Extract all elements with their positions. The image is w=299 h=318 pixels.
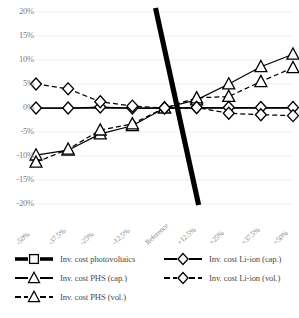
x-axis-tick-label: +50% bbox=[271, 229, 290, 247]
legend-key-triangle-dashed bbox=[14, 290, 54, 304]
legend-item[interactable]: Inv. cost PHS (cap.) bbox=[14, 268, 135, 287]
data-point-marker bbox=[63, 83, 74, 95]
data-point-marker bbox=[255, 75, 267, 86]
chart-canvas bbox=[0, 0, 299, 215]
legend-item[interactable]: Inv. cost Li-ion (cap.) bbox=[163, 249, 281, 268]
x-axis-tick-label: Reference bbox=[143, 221, 170, 247]
legend-item-label: Inv. cost Li-ion (vol.) bbox=[209, 273, 280, 283]
data-point-marker bbox=[28, 272, 39, 282]
x-axis-tick-label: +37.5% bbox=[239, 225, 261, 246]
legend-item[interactable]: Inv. cost PHS (vol.) bbox=[14, 287, 135, 306]
legend-column-right: Inv. cost Li-ion (cap.)Inv. cost Li-ion … bbox=[163, 249, 281, 287]
y-axis-tick-label: -5% bbox=[0, 127, 34, 136]
data-point-marker bbox=[30, 254, 39, 263]
legend-key-triangle-solid bbox=[14, 271, 54, 285]
data-point-marker bbox=[223, 90, 235, 101]
data-point-marker bbox=[255, 60, 267, 71]
x-axis-tick-label: -25% bbox=[78, 230, 95, 247]
x-axis-tick-label: -37.5% bbox=[46, 226, 67, 246]
y-axis-tick-label: -15% bbox=[0, 175, 34, 184]
data-point-marker bbox=[63, 102, 74, 114]
y-axis-tick-label: -10% bbox=[0, 151, 34, 160]
data-point-marker bbox=[255, 109, 266, 121]
legend-key-diamond-dashed bbox=[163, 271, 203, 285]
plot-area: 20%15%10%5%0%-5%-10%-15%-20% bbox=[0, 0, 299, 215]
legend-item-label: Inv. cost PHS (vol.) bbox=[60, 292, 126, 302]
legend-key-square-solid bbox=[14, 252, 54, 266]
y-axis-tick-label: -20% bbox=[0, 199, 34, 208]
x-axis-tick-label: -12.5% bbox=[110, 226, 131, 246]
x-axis-tick-label: +12.5% bbox=[175, 225, 197, 246]
series-line bbox=[36, 68, 293, 163]
x-axis-tick-label: -50% bbox=[14, 230, 31, 247]
y-axis-tick-label: 5% bbox=[0, 79, 34, 88]
legend-item-label: Inv. cost photovoltaics bbox=[60, 254, 135, 264]
legend-column-left: Inv. cost photovoltaicsInv. cost PHS (ca… bbox=[14, 249, 135, 306]
y-axis-tick-label: 0% bbox=[0, 103, 34, 112]
legend-item-label: Inv. cost Li-ion (cap.) bbox=[209, 254, 281, 264]
legend-item[interactable]: Inv. cost Li-ion (vol.) bbox=[163, 268, 281, 287]
legend-key-diamond-solid bbox=[163, 252, 203, 266]
chart-figure: 20%15%10%5%0%-5%-10%-15%-20% -50%-37.5%-… bbox=[0, 0, 299, 318]
y-axis-tick-label: 20% bbox=[0, 7, 34, 16]
data-point-marker bbox=[223, 78, 235, 89]
y-axis-tick-label: 15% bbox=[0, 31, 34, 40]
legend-item[interactable]: Inv. cost photovoltaics bbox=[14, 249, 135, 268]
data-point-marker bbox=[28, 291, 39, 301]
y-axis-tick-label: 10% bbox=[0, 55, 34, 64]
legend-item-label: Inv. cost PHS (cap.) bbox=[60, 273, 127, 283]
data-point-marker bbox=[287, 48, 299, 59]
x-axis-tick-label: +25% bbox=[207, 229, 226, 247]
data-point-marker bbox=[287, 61, 299, 72]
chart-legend: Inv. cost photovoltaicsInv. cost PHS (ca… bbox=[0, 249, 299, 318]
data-point-marker bbox=[288, 110, 299, 122]
data-point-marker bbox=[178, 272, 188, 283]
data-point-marker bbox=[178, 253, 188, 264]
